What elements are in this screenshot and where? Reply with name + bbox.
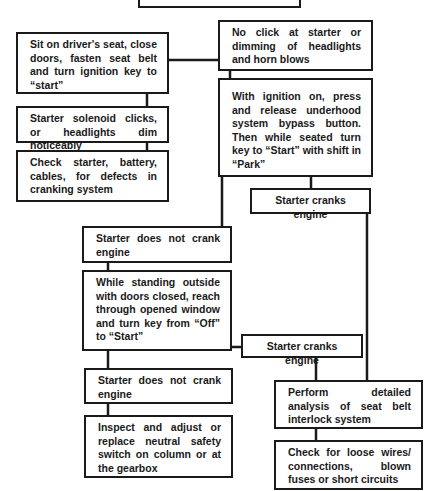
step-standing-outside: While standing outside with doors closed… [82,270,232,351]
result-not-crank-upper: Starter does not crank engine [82,226,232,263]
action-seat-belt-analysis: Perform detailed analysis of seat belt i… [274,380,423,429]
action-check-starter: Check starter, battery, cables, for defe… [16,150,169,202]
result-cranks-lower: Starter cranks engine [241,334,363,358]
result-solenoid-clicks: Starter solenoid clicks, or headlights d… [16,106,169,143]
result-cranks-upper: Starter cranks engine [250,188,371,214]
step-ignition-bypass: With ignition on, press and release unde… [218,78,373,177]
action-check-wires: Check for loose wires/ connections, blow… [274,440,423,490]
result-no-click: No click at starter or dimming of headli… [218,20,373,71]
action-inspect-neutral-switch: Inspect and adjust or replace neutral sa… [84,415,233,478]
result-not-crank-lower: Starter does not crank engine [84,368,233,404]
step-sit-on-seat: Sit on driver's seat, close doors, faste… [16,32,169,94]
